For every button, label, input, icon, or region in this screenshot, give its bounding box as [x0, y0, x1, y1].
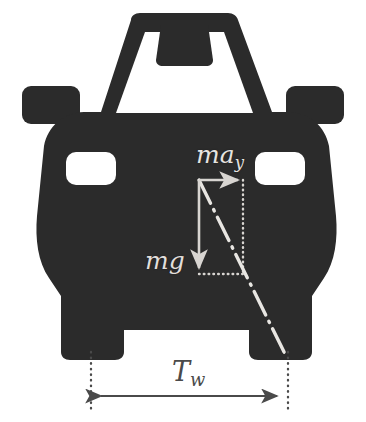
- left-headlight: [66, 152, 116, 185]
- rearview-mirror: [156, 25, 213, 66]
- label-lateral-acceleration: may: [196, 142, 244, 171]
- right-headlight: [255, 152, 305, 185]
- label-tw-subscript: w: [190, 369, 205, 390]
- label-track-width: Tw: [172, 358, 205, 389]
- figure-root: may mg Tw: [0, 0, 366, 422]
- label-weight: mg: [145, 248, 185, 273]
- label-tw-base: T: [172, 356, 190, 387]
- label-may-subscript: y: [235, 153, 244, 172]
- car-front-silhouette: [22, 13, 344, 360]
- label-may-base: ma: [196, 140, 235, 169]
- label-mg-base: mg: [145, 246, 185, 275]
